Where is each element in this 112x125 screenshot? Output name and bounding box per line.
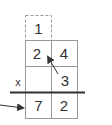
multiplicand-digit-tens: 2 xyxy=(33,45,41,62)
carry-arrow xyxy=(48,57,58,74)
multiply-operator: x xyxy=(15,76,21,88)
product-digit-ones: 2 xyxy=(60,97,68,114)
multiplier-digit-ones: 3 xyxy=(61,72,69,89)
multiplicand-digit-ones: 4 xyxy=(60,45,68,62)
product-digit-tens: 7 xyxy=(34,97,42,114)
product-pointer-arrow xyxy=(0,105,23,108)
carry-digit: 1 xyxy=(34,20,42,37)
multiplication-diagram: 1 2 4 3 x 7 2 xyxy=(0,0,112,125)
